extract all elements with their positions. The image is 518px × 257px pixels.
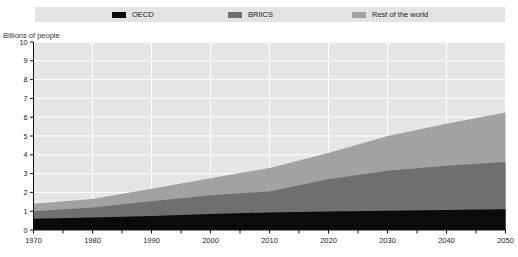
chart-figure: OECD BRIICS Rest of the world Billions o… <box>0 0 518 257</box>
y-tick-label: 0 <box>24 226 28 235</box>
stacked-area-chart: 0123456789101970198019902000201020202030… <box>0 0 518 257</box>
x-tick-label: 1970 <box>25 236 42 245</box>
y-tick-label: 5 <box>24 132 28 141</box>
y-tick-label: 9 <box>24 56 28 65</box>
y-tick-label: 8 <box>24 75 28 84</box>
y-tick-label: 10 <box>20 38 28 47</box>
x-tick-label: 2020 <box>320 236 337 245</box>
x-tick-label: 2050 <box>497 236 514 245</box>
x-tick-label: 2010 <box>261 236 278 245</box>
x-tick-label: 1980 <box>84 236 101 245</box>
x-tick-label: 1990 <box>143 236 160 245</box>
x-tick-label: 2030 <box>379 236 396 245</box>
x-tick-label: 2040 <box>438 236 455 245</box>
x-tick-label: 2000 <box>202 236 219 245</box>
y-tick-label: 1 <box>24 207 28 216</box>
y-tick-label: 3 <box>24 169 28 178</box>
y-tick-label: 7 <box>24 94 28 103</box>
y-tick-label: 6 <box>24 113 28 122</box>
y-tick-label: 4 <box>24 150 28 159</box>
y-tick-label: 2 <box>24 188 28 197</box>
